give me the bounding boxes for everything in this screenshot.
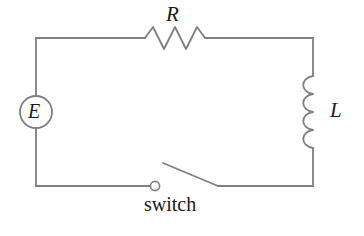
- switch-terminal-circle[interactable]: [150, 181, 159, 190]
- circuit-diagram-figure: R L E switch: [0, 0, 364, 236]
- inductor-label: L: [330, 100, 342, 121]
- switch-blade[interactable]: [163, 163, 218, 186]
- emf-source-label: E: [28, 101, 40, 121]
- resistor-label: R: [166, 4, 179, 25]
- resistor-zigzag-symbol: [145, 27, 205, 49]
- inductor-coil-symbol: [303, 76, 313, 148]
- switch-label: switch: [144, 194, 196, 214]
